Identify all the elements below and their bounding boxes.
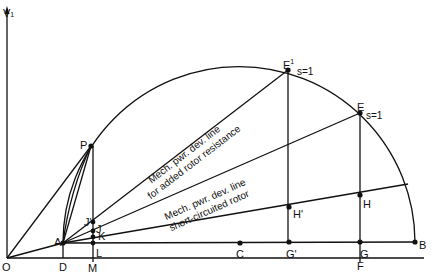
axis-label-v1: V1	[3, 8, 14, 19]
slip-label-e: s=1	[366, 111, 382, 121]
label-b: B	[419, 240, 426, 251]
point-c	[237, 240, 242, 245]
label-d: D	[59, 262, 67, 273]
point-p	[88, 143, 93, 148]
label-p: P	[80, 140, 87, 151]
label-f: F	[357, 261, 364, 272]
label-a: A	[54, 237, 61, 248]
slip-label-e-prime: s=1	[297, 67, 313, 77]
label-k: K	[98, 231, 105, 242]
point-l	[91, 241, 96, 246]
label-e-prime: E1	[283, 58, 294, 71]
point-j	[91, 229, 96, 234]
label-l: L	[96, 248, 102, 259]
point-k	[91, 235, 96, 240]
label-g: G	[360, 249, 369, 260]
point-h	[357, 192, 362, 197]
line-op	[7, 146, 91, 258]
label-m: M	[88, 263, 97, 274]
circle-arc	[63, 67, 415, 243]
label-g-prime: G'	[286, 249, 297, 260]
label-c: C	[236, 249, 244, 260]
point-g-prime	[286, 239, 291, 244]
point-g	[357, 239, 362, 244]
label-j-prime: J'	[84, 217, 92, 228]
line-ap	[63, 146, 91, 243]
label-e: E	[357, 102, 364, 113]
label-h: H	[363, 199, 371, 210]
label-h-prime: H'	[293, 209, 303, 220]
point-h-prime	[286, 204, 291, 209]
label-o: O	[2, 262, 11, 273]
point-b	[412, 239, 417, 244]
